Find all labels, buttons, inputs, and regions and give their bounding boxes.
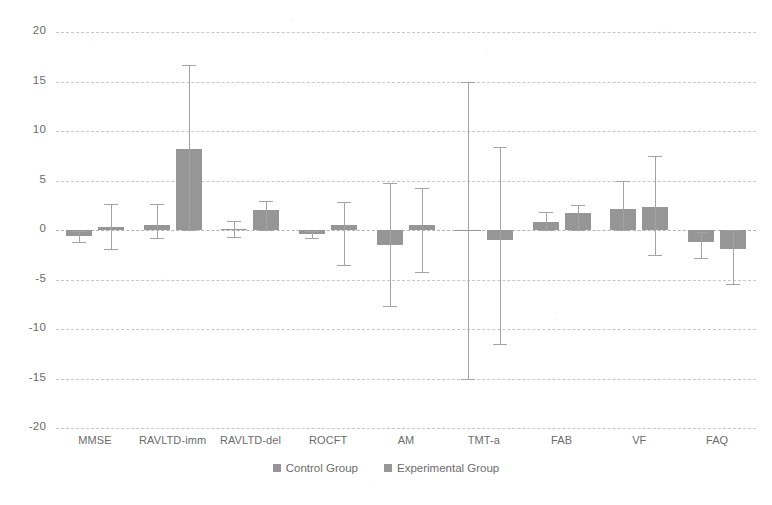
error-bar-line xyxy=(623,181,624,231)
error-bar-cap-upper xyxy=(305,231,319,232)
error-bar-cap-lower xyxy=(571,230,585,231)
error-bar-line xyxy=(189,65,190,230)
error-bar-line xyxy=(546,212,547,230)
y-axis-tick-label: -10 xyxy=(6,321,46,333)
legend-entry-control-group[interactable]: Control Group xyxy=(273,462,358,474)
gridline xyxy=(56,32,756,33)
error-bar-cap-lower xyxy=(383,306,397,307)
y-axis-tick-label: 5 xyxy=(6,173,46,185)
gridline xyxy=(56,82,756,83)
error-bar-cap-upper xyxy=(461,82,475,83)
error-bar-cap-upper xyxy=(72,231,86,232)
gridline xyxy=(56,131,756,132)
error-bar-cap-upper xyxy=(648,156,662,157)
error-bar-line xyxy=(701,232,702,258)
gridline xyxy=(56,379,756,380)
error-bar-cap-lower xyxy=(726,284,740,285)
error-bar-cap-lower xyxy=(461,379,475,380)
legend-entry-experimental-group[interactable]: Experimental Group xyxy=(384,462,499,474)
error-bar-cap-lower xyxy=(493,344,507,345)
chart-figure: Control GroupExperimental Group 20151050… xyxy=(0,0,772,505)
gridline xyxy=(56,230,756,231)
error-bar-cap-upper xyxy=(182,65,196,66)
legend-label: Control Group xyxy=(286,462,358,474)
gridline xyxy=(56,428,756,429)
error-bar-cap-upper xyxy=(493,147,507,148)
error-bar-line xyxy=(578,205,579,230)
error-bar-line xyxy=(266,201,267,230)
error-bar-cap-lower xyxy=(539,230,553,231)
error-bar-cap-upper xyxy=(726,230,740,231)
error-bar-cap-upper xyxy=(150,204,164,205)
error-bar-cap-lower xyxy=(648,255,662,256)
x-axis-tick-label: FAQ xyxy=(657,434,772,446)
error-bar-cap-lower xyxy=(337,265,351,266)
error-bar-cap-lower xyxy=(227,237,241,238)
error-bar-cap-lower xyxy=(616,230,630,231)
y-axis-tick-label: 10 xyxy=(6,123,46,135)
y-axis-tick-label: 15 xyxy=(6,74,46,86)
y-axis-tick-label: -20 xyxy=(6,420,46,432)
error-bar-line xyxy=(79,231,80,242)
error-bar-cap-lower xyxy=(182,230,196,231)
error-bar-line xyxy=(468,82,469,379)
error-bar-line xyxy=(390,183,391,306)
y-axis-tick-label: -15 xyxy=(6,371,46,383)
error-bar-line xyxy=(733,230,734,284)
error-bar-line xyxy=(312,231,313,238)
error-bar-cap-upper xyxy=(616,181,630,182)
y-axis-tick-label: -5 xyxy=(6,272,46,284)
legend-swatch-icon xyxy=(273,464,281,472)
error-bar-cap-lower xyxy=(415,272,429,273)
error-bar-line xyxy=(500,147,501,344)
error-bar-cap-upper xyxy=(383,183,397,184)
error-bar-cap-upper xyxy=(259,201,273,202)
error-bar-cap-lower xyxy=(150,238,164,239)
error-bar-cap-upper xyxy=(337,202,351,203)
error-bar-line xyxy=(655,156,656,255)
error-bar-cap-lower xyxy=(72,242,86,243)
plot-area xyxy=(56,32,756,428)
error-bar-cap-lower xyxy=(104,249,118,250)
error-bar-cap-upper xyxy=(227,221,241,222)
gridline xyxy=(56,181,756,182)
error-bar-cap-lower xyxy=(259,230,273,231)
error-bar-line xyxy=(344,202,345,264)
error-bar-cap-upper xyxy=(694,232,708,233)
legend-swatch-icon xyxy=(384,464,392,472)
error-bar-cap-upper xyxy=(571,205,585,206)
chart-legend: Control GroupExperimental Group xyxy=(0,462,772,474)
error-bar-cap-upper xyxy=(415,188,429,189)
error-bar-line xyxy=(157,204,158,238)
error-bar-cap-lower xyxy=(694,258,708,259)
y-axis-tick-label: 0 xyxy=(6,222,46,234)
gridline xyxy=(56,280,756,281)
legend-label: Experimental Group xyxy=(397,462,499,474)
gridline xyxy=(56,329,756,330)
error-bar-line xyxy=(422,188,423,271)
error-bar-cap-upper xyxy=(539,212,553,213)
error-bar-cap-lower xyxy=(305,238,319,239)
error-bar-cap-upper xyxy=(104,204,118,205)
error-bar-line xyxy=(111,204,112,249)
error-bar-line xyxy=(234,221,235,237)
y-axis-tick-label: 20 xyxy=(6,24,46,36)
